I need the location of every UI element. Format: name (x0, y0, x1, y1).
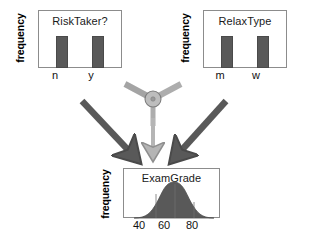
arrow-risk-taker-to-exam-grade (82, 101, 130, 152)
connector-layer (0, 0, 310, 244)
diagram-canvas: frequency RiskTaker? n y frequency Relax… (0, 0, 310, 244)
arrow-relax-type-to-exam-grade (180, 101, 226, 152)
